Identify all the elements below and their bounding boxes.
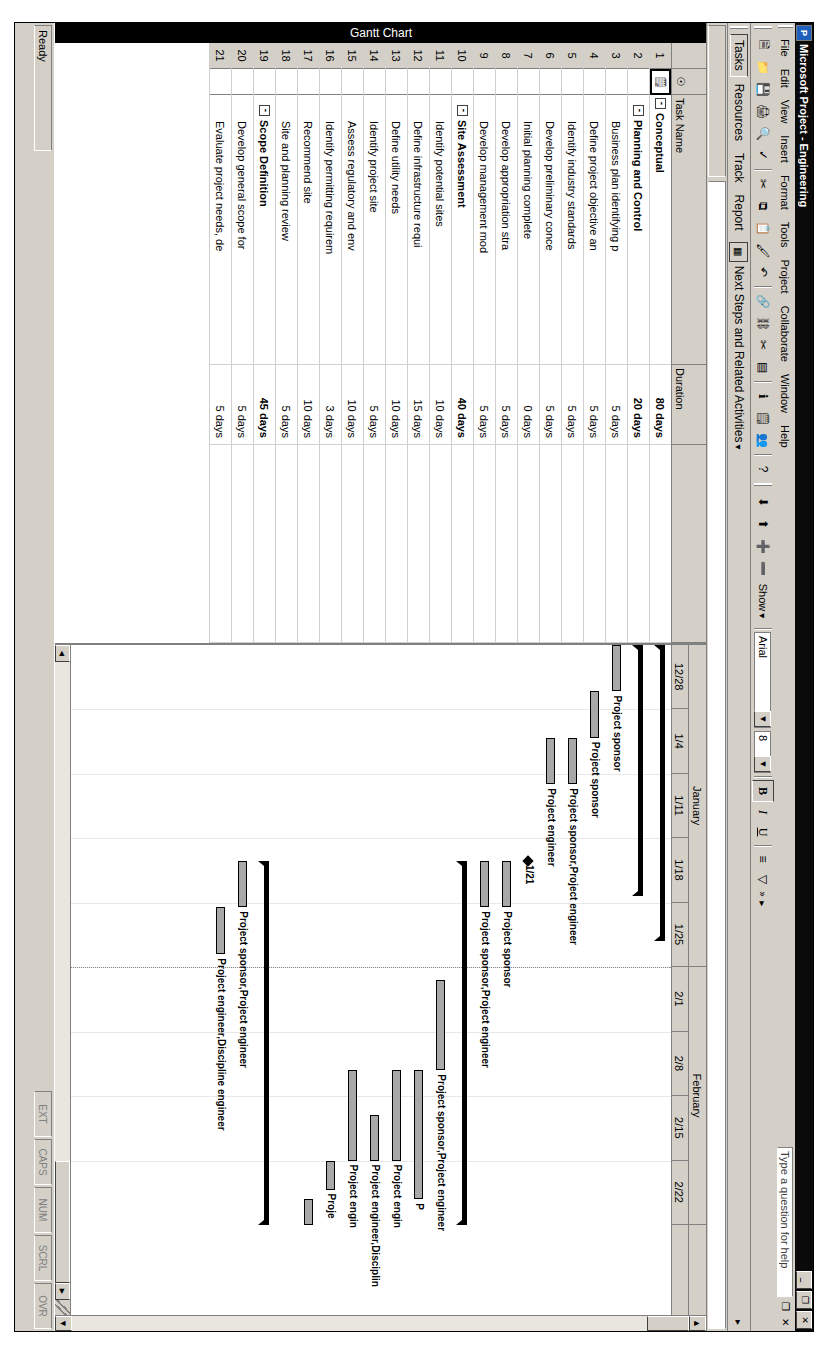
indicator-cell[interactable] <box>584 69 605 95</box>
row-number[interactable]: 5 <box>562 43 583 69</box>
empty-cell[interactable] <box>584 445 605 643</box>
print-preview-icon[interactable]: 🔍 <box>752 122 773 144</box>
table-row[interactable]: 18Site and planning review5 days <box>275 43 297 643</box>
menu-insert[interactable]: Insert <box>777 129 793 169</box>
task-name-cell[interactable]: Identify industry standards <box>562 95 583 365</box>
empty-cell[interactable] <box>342 445 363 643</box>
duration-cell[interactable]: 45 days <box>254 365 275 445</box>
menu-file[interactable]: File <box>777 33 793 63</box>
task-information-icon[interactable]: ℹ <box>752 385 773 407</box>
row-number[interactable]: 1 <box>650 43 671 69</box>
row-number[interactable]: 21 <box>210 43 231 69</box>
duration-cell[interactable]: 5 days <box>474 365 495 445</box>
gantt-task-bar[interactable] <box>436 980 445 1070</box>
split-task-icon[interactable]: ▤ <box>752 356 773 378</box>
table-row[interactable]: 13Define utility needs10 days <box>385 43 407 643</box>
scroll-right-button[interactable]: ▶ <box>55 1283 70 1300</box>
task-name-cell[interactable]: Develop preliminary conce <box>540 95 561 365</box>
indicator-cell[interactable] <box>232 69 253 95</box>
next-steps-dropdown-icon[interactable]: ▾ <box>733 442 744 451</box>
duration-cell[interactable]: 5 days <box>232 365 253 445</box>
link-tasks-icon[interactable]: ⛓ <box>752 312 773 334</box>
duration-cell[interactable]: 5 days <box>540 365 561 445</box>
empty-cell[interactable] <box>232 445 253 643</box>
duration-cell[interactable]: 20 days <box>628 365 649 445</box>
menu-view[interactable]: View <box>777 93 793 129</box>
task-name-cell[interactable]: -Planning and Control <box>628 95 649 365</box>
outline-collapse-icon[interactable]: - <box>655 98 666 109</box>
toolbar-overflow-arrow-icon[interactable]: ▸ <box>757 899 768 908</box>
indicator-cell[interactable] <box>276 69 297 95</box>
indicator-cell[interactable] <box>474 69 495 95</box>
menu-collaborate[interactable]: Collaborate <box>777 299 793 367</box>
vertical-scrollbar[interactable]: ▲ ▼ <box>55 1315 706 1331</box>
vscroll-track[interactable] <box>72 1316 647 1331</box>
minimize-button[interactable]: _ <box>796 1271 812 1289</box>
menu-help[interactable]: Help <box>777 419 793 454</box>
task-name-cell[interactable]: Recommend site <box>298 95 319 365</box>
duration-cell[interactable]: 10 days <box>430 365 451 445</box>
underline-button[interactable]: U <box>753 822 773 842</box>
hyperlink-icon[interactable]: 🔗 <box>752 290 773 312</box>
table-row[interactable]: 4Define project objective an5 days <box>583 43 605 643</box>
table-row[interactable]: 2-Planning and Control20 days <box>627 43 649 643</box>
toolbar-overflow-button[interactable]: » <box>757 889 768 899</box>
empty-cell[interactable] <box>540 445 561 643</box>
gantt-task-bar[interactable] <box>216 907 225 954</box>
table-row[interactable]: 14Identify project site5 days <box>363 43 385 643</box>
gantt-task-bar[interactable] <box>326 1160 335 1189</box>
gantt-summary-bar[interactable] <box>638 645 643 896</box>
task-name-cell[interactable]: Identify permitting requirem <box>320 95 341 365</box>
spelling-icon[interactable]: ✓ <box>752 144 773 166</box>
row-number[interactable]: 2 <box>628 43 649 69</box>
indicator-cell[interactable] <box>254 69 275 95</box>
empty-cell[interactable] <box>320 445 341 643</box>
hscroll-track[interactable] <box>55 662 70 1161</box>
empty-cell[interactable] <box>386 445 407 643</box>
indicators-column-header[interactable]: ☉ <box>672 69 706 95</box>
menu-project[interactable]: Project <box>777 253 793 299</box>
gantt-task-bar[interactable] <box>568 737 577 783</box>
help-icon[interactable]: ? <box>752 458 773 480</box>
outline-collapse-icon[interactable]: - <box>259 105 270 116</box>
task-notes-icon[interactable]: 🗒 <box>752 407 773 429</box>
indicator-cell[interactable] <box>540 69 561 95</box>
table-row[interactable]: 11Identify potential sites10 days <box>429 43 451 643</box>
format-painter-icon[interactable]: 🖌 <box>752 239 773 261</box>
project-guide-grip[interactable] <box>730 26 748 31</box>
duration-cell[interactable]: 3 days <box>320 365 341 445</box>
resize-grip[interactable] <box>55 1300 70 1315</box>
document-restore-button[interactable]: ❐ <box>780 1300 791 1313</box>
gantt-task-bar[interactable] <box>392 1070 401 1160</box>
table-row[interactable]: 1🗒-Conceptual80 days <box>649 43 671 643</box>
task-name-cell[interactable]: Site and planning review <box>276 95 297 365</box>
guide-tab-report[interactable]: Report <box>731 189 747 235</box>
empty-cell[interactable] <box>408 445 429 643</box>
row-number[interactable]: 19 <box>254 43 275 69</box>
indicator-cell[interactable] <box>342 69 363 95</box>
duration-cell[interactable]: 5 days <box>562 365 583 445</box>
print-icon[interactable]: 🖨 <box>752 100 773 122</box>
duration-cell[interactable]: 5 days <box>364 365 385 445</box>
table-row[interactable]: 17Recommend site10 days <box>297 43 319 643</box>
table-row[interactable]: 16Identify permitting requirem3 days <box>319 43 341 643</box>
italic-button[interactable]: I <box>753 802 773 822</box>
duration-cell[interactable]: 5 days <box>276 365 297 445</box>
indicator-cell[interactable] <box>210 69 231 95</box>
empty-cell[interactable] <box>518 445 539 643</box>
show-dropdown-button[interactable]: Show▾ <box>752 579 773 625</box>
menu-window[interactable]: Window <box>777 367 793 418</box>
row-number[interactable]: 11 <box>430 43 451 69</box>
view-bar[interactable]: Gantt Chart <box>55 23 706 43</box>
font-size-combo[interactable]: 8 ▼ <box>754 731 771 773</box>
save-icon[interactable]: 💾 <box>752 78 773 100</box>
empty-cell[interactable] <box>606 445 627 643</box>
table-row[interactable]: 8Develop appropriation stra5 days <box>495 43 517 643</box>
unlink-tasks-icon[interactable]: ✂ <box>752 334 773 356</box>
row-number[interactable]: 7 <box>518 43 539 69</box>
table-row[interactable]: 21Evaluate project needs, de5 days <box>209 43 231 643</box>
row-number[interactable]: 10 <box>452 43 473 69</box>
cut-icon[interactable]: ✂ <box>752 173 773 195</box>
assign-resources-icon[interactable]: 👥 <box>752 429 773 451</box>
empty-cell[interactable] <box>628 445 649 643</box>
